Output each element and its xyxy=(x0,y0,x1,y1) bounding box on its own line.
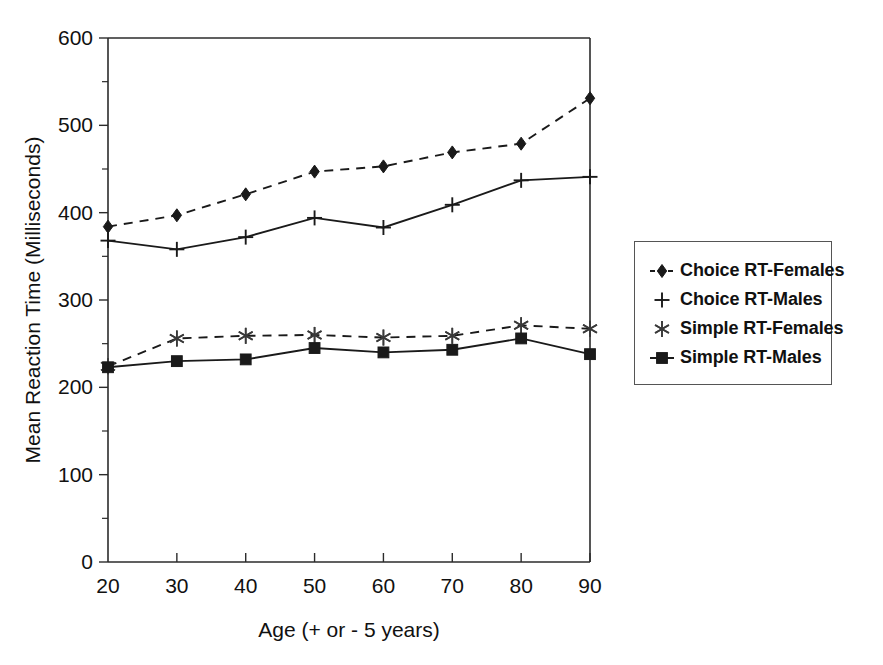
x-tick-label: 80 xyxy=(509,574,532,597)
marker-diamond xyxy=(585,92,594,105)
x-tick-label: 90 xyxy=(578,574,601,597)
marker-square xyxy=(103,362,114,373)
marker-star xyxy=(170,330,184,346)
series-group xyxy=(101,92,598,375)
marker-diamond xyxy=(448,146,457,159)
y-axis-title: Mean Reaction Time (Milliseconds) xyxy=(21,137,44,464)
legend-item-label: Choice RT-Females xyxy=(680,260,844,281)
marker-square xyxy=(378,347,389,358)
legend-item-label: Choice RT-Males xyxy=(680,289,823,310)
series-line xyxy=(108,98,590,226)
marker-diamond xyxy=(103,220,112,233)
legend-item-label: Simple RT-Females xyxy=(680,318,843,339)
marker-square xyxy=(516,333,527,344)
marker-square xyxy=(585,349,596,360)
y-tick-label: 200 xyxy=(58,375,93,398)
square-legend-icon xyxy=(649,348,675,368)
x-tick-label: 60 xyxy=(372,574,395,597)
y-tick-group: 0100200300400500600 xyxy=(58,26,108,573)
y-tick-label: 500 xyxy=(58,113,93,136)
marker-square xyxy=(447,344,458,355)
x-tick-label: 30 xyxy=(165,574,188,597)
marker-diamond xyxy=(657,264,666,277)
y-tick-label: 300 xyxy=(58,288,93,311)
axes xyxy=(108,38,590,562)
legend-item[interactable]: Choice RT-Males xyxy=(635,285,831,314)
marker-diamond xyxy=(516,137,525,150)
x-tick-group: 2030405060708090 xyxy=(96,553,601,597)
marker-diamond xyxy=(172,209,181,222)
x-tick-label: 40 xyxy=(234,574,257,597)
marker-square xyxy=(240,354,251,365)
x-axis-title: Age (+ or - 5 years) xyxy=(258,618,439,641)
legend-item-label: Simple RT-Males xyxy=(680,347,822,368)
chart-figure: 0100200300400500600 2030405060708090 Mea… xyxy=(0,0,883,665)
diamond-legend-icon xyxy=(649,261,675,281)
legend-item[interactable]: Simple RT-Males xyxy=(635,343,831,372)
y-tick-label: 100 xyxy=(58,463,93,486)
series-choice-rt-females xyxy=(103,92,594,233)
x-tick-label: 50 xyxy=(303,574,326,597)
marker-square xyxy=(309,343,320,354)
marker-square xyxy=(657,352,668,363)
plus-legend-icon xyxy=(649,290,675,310)
y-tick-label: 400 xyxy=(58,201,93,224)
marker-diamond xyxy=(241,188,250,201)
marker-star xyxy=(655,321,669,337)
y-tick-label: 0 xyxy=(81,550,93,573)
marker-diamond xyxy=(310,165,319,178)
legend-item[interactable]: Choice RT-Females xyxy=(635,256,831,285)
marker-diamond xyxy=(379,160,388,173)
chart-legend: Choice RT-FemalesChoice RT-MalesSimple R… xyxy=(634,241,832,385)
x-tick-label: 70 xyxy=(441,574,464,597)
x-tick-label: 20 xyxy=(96,574,119,597)
marker-square xyxy=(171,356,182,367)
star-legend-icon xyxy=(649,319,675,339)
legend-list: Choice RT-FemalesChoice RT-MalesSimple R… xyxy=(635,242,831,372)
y-tick-label: 600 xyxy=(58,26,93,49)
legend-item[interactable]: Simple RT-Females xyxy=(635,314,831,343)
